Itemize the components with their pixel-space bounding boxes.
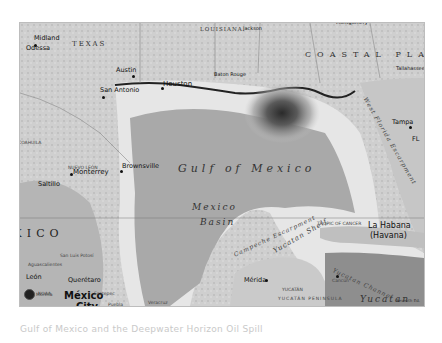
label-baton-rouge: Baton Rouge bbox=[214, 72, 246, 77]
label-gulf-of-mexico: Gulf of Mexico bbox=[178, 163, 315, 174]
label-brownsville: Brownsville bbox=[122, 163, 159, 170]
label-tampa: Tampa bbox=[392, 119, 413, 126]
label-san-luis-potosi: San Luis Potosí bbox=[60, 254, 94, 259]
label-aguascalientes: Aguascalientes bbox=[28, 263, 62, 268]
label-odessa: Odessa bbox=[26, 45, 50, 52]
noaa-logo-group: NOAA bbox=[24, 289, 51, 300]
label-houston: Houston bbox=[163, 81, 192, 88]
label-texas: TEXAS bbox=[72, 41, 106, 48]
label-queretaro: Querétaro bbox=[68, 277, 101, 284]
label-monterrey: Monterrey bbox=[73, 169, 109, 176]
label-la-habana-1: La Habana bbox=[368, 222, 411, 230]
label-coastal-plain: COASTAL PLAIN bbox=[305, 51, 425, 59]
label-austin: Austin bbox=[116, 67, 136, 74]
label-tallahassee: Tallahassee bbox=[396, 66, 425, 71]
label-yucatan-peninsula: YUCATÁN PENINSULA bbox=[278, 297, 343, 302]
label-mexico-country: XICO bbox=[19, 228, 64, 239]
label-san-antonio: San Antonio bbox=[100, 87, 139, 94]
label-fl: FL bbox=[412, 136, 419, 143]
gulf-map: TEXAS LOUISIANA COASTAL PLAIN XICO COAHU… bbox=[19, 22, 425, 307]
noaa-logo-icon bbox=[24, 289, 35, 300]
label-midland: Midland bbox=[34, 35, 60, 42]
label-cancun: Cancún bbox=[332, 279, 349, 284]
figure-caption: Gulf of Mexico and the Deepwater Horizon… bbox=[20, 324, 420, 334]
label-ecatepec: Ecatepec bbox=[94, 292, 115, 297]
label-mexico-basin-1: Mexico bbox=[192, 203, 237, 212]
label-jackson: Jackson bbox=[243, 26, 262, 31]
label-mexico-basin-2: Basin bbox=[200, 218, 235, 227]
label-leon: León bbox=[26, 274, 42, 281]
label-la-habana-2: (Havana) bbox=[370, 232, 407, 240]
label-saltillo: Saltillo bbox=[38, 181, 60, 188]
label-puebla: Puebla bbox=[108, 303, 123, 307]
label-yucatan-state: YUCATÁN bbox=[282, 288, 303, 293]
label-tropic-of-cancer: TROPIC OF CANCER bbox=[317, 222, 361, 227]
noaa-label: NOAA bbox=[38, 292, 51, 297]
label-louisiana: LOUISIANA bbox=[200, 27, 243, 33]
label-veracruz: Veracruz bbox=[148, 301, 168, 306]
label-mexico-city-2: City bbox=[76, 302, 98, 307]
label-montgomery: Montgomery bbox=[336, 22, 368, 25]
label-merida: Mérida bbox=[244, 277, 266, 284]
map-credit: Seventh Ed. bbox=[396, 298, 420, 303]
label-coahuila: COAHUILA bbox=[19, 141, 41, 146]
